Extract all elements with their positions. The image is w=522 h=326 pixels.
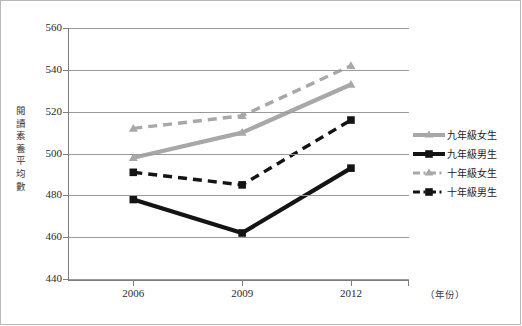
- legend-swatch-gray-solid-triangle-icon: [412, 128, 446, 142]
- series-line: [133, 168, 351, 233]
- data-point-marker: [238, 229, 246, 237]
- x-axis-title: （年份）: [425, 287, 465, 301]
- x-axis-tick-labels: 200620092012: [68, 287, 409, 305]
- data-point-marker: [238, 181, 246, 189]
- legend-item-3: 十年級男生: [412, 182, 520, 201]
- y-axis-tick-label: 440: [24, 272, 62, 284]
- y-axis-tick: [63, 70, 69, 71]
- y-axis-tick: [63, 237, 69, 238]
- legend-label: 十年級男生: [447, 184, 497, 199]
- y-axis-tick: [63, 28, 69, 29]
- legend-label: 十年級女生: [447, 165, 497, 180]
- legend-swatch-black-dashed-square-icon: [412, 185, 446, 199]
- legend-label: 九年級女生: [447, 127, 497, 142]
- legend-swatch-gray-dashed-triangle-icon: [412, 166, 446, 180]
- plot-area: [68, 28, 409, 279]
- gridline: [68, 237, 409, 238]
- data-point-marker: [129, 169, 137, 177]
- chart-frame: 閱 讀 素 養 平 均 數 440460480500520540560 2006…: [0, 0, 521, 325]
- gridline: [68, 112, 409, 113]
- series-0: [129, 80, 356, 161]
- x-axis-end-tick: [408, 280, 409, 286]
- y-axis-tick-label: 460: [24, 230, 62, 242]
- y-axis-tick: [63, 195, 69, 196]
- gridline: [68, 195, 409, 196]
- legend: 九年級女生 九年級男生 十年級女生 十年級男生: [412, 125, 520, 201]
- x-axis-tick-label: 2012: [340, 287, 362, 299]
- data-point-marker: [346, 61, 355, 69]
- y-axis-tick-label: 480: [24, 188, 62, 200]
- legend-item-2: 十年級女生: [412, 163, 520, 182]
- legend-label: 九年級男生: [447, 146, 497, 161]
- y-axis-tick-label: 560: [24, 21, 62, 33]
- gridline: [68, 28, 409, 29]
- y-axis-tick-label: 500: [24, 147, 62, 159]
- data-point-marker: [347, 164, 355, 172]
- y-axis-tick-labels: 440460480500520540560: [18, 28, 62, 280]
- gridline: [68, 154, 409, 155]
- legend-item-0: 九年級女生: [412, 125, 520, 144]
- x-axis-tick-label: 2006: [122, 287, 144, 299]
- x-axis-tick-label: 2009: [231, 287, 253, 299]
- series-line: [133, 85, 351, 158]
- y-axis-tick-label: 540: [24, 63, 62, 75]
- y-axis-tick: [63, 112, 69, 113]
- data-point-marker: [347, 116, 355, 124]
- legend-item-1: 九年級男生: [412, 144, 520, 163]
- x-axis-line: [68, 280, 409, 281]
- data-point-marker: [129, 196, 137, 204]
- y-axis-tick-label: 520: [24, 105, 62, 117]
- legend-swatch-black-solid-square-icon: [412, 147, 446, 161]
- y-axis-tick: [63, 154, 69, 155]
- gridline: [68, 70, 409, 71]
